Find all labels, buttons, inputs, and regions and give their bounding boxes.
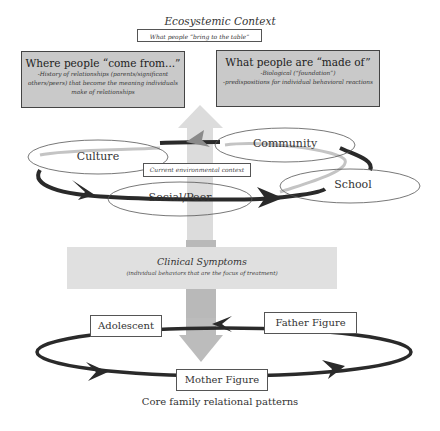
current-environmental-context-label: Current environmental context [143, 163, 251, 177]
label-culture: Culture [58, 150, 138, 163]
label-school: School [318, 178, 388, 191]
box-line-2: -predispositions for individual behavior… [217, 78, 379, 87]
clinical-symptoms-box: Clinical Symptoms (individual behaviors … [67, 247, 337, 289]
core-family-caption: Core family relational patterns [110, 396, 330, 407]
box-title: What people are “made of” [217, 56, 379, 68]
clinical-title: Clinical Symptoms [67, 256, 337, 267]
family-arrowhead-left [86, 362, 108, 381]
ecosystemic-subtitle: What people “bring to the table” [137, 29, 262, 42]
clinical-subtitle: (individual behaviors that are the focus… [67, 270, 337, 276]
label-community: Community [240, 137, 330, 150]
ecosystemic-title: Ecosystemic Context [140, 15, 300, 27]
mother-figure-box: Mother Figure [176, 369, 268, 391]
where-people-come-from-box: Where people “come from...” -History of … [21, 51, 185, 108]
what-people-made-of-box: What people are “made of” -Biological (“… [216, 50, 380, 107]
box-title: Where people “come from...” [22, 57, 184, 69]
box-body: -History of relationships (parents/signi… [22, 69, 184, 97]
label-social-peer: Social/Peer [140, 191, 220, 204]
adolescent-box: Adolescent [90, 315, 162, 337]
box-line-1: -Biological (“foundation”) [217, 68, 379, 78]
father-figure-box: Father Figure [264, 312, 357, 334]
